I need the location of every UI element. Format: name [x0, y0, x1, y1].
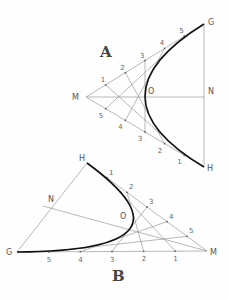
division-tick: [124, 119, 126, 121]
division-tick: [186, 235, 188, 237]
division-label-mg-4: 4: [160, 39, 165, 47]
division-label-mh-3: 3: [138, 135, 142, 143]
division-tick: [144, 131, 146, 133]
point-label-o: O: [120, 212, 126, 221]
division-label-hm-3: 3: [149, 198, 153, 206]
figure-a-labels: 1234554321MGHNO: [72, 18, 214, 173]
diagram-canvas: 1234554321MGHNO A 1234554321GHMNO B: [0, 0, 229, 300]
point-label-o: O: [148, 87, 154, 96]
division-label-gm-3: 3: [110, 256, 114, 264]
figure-a: 1234554321MGHNO A: [72, 18, 214, 173]
division-tick: [146, 206, 148, 208]
figure-b: 1234554321GHMNO B: [6, 154, 217, 285]
point-label-h: H: [79, 154, 85, 163]
side-gh: [17, 163, 87, 252]
division-label-mg-2: 2: [120, 64, 124, 72]
division-label-mg-5: 5: [179, 27, 183, 35]
point-label-m: M: [210, 248, 217, 257]
division-label-hm-2: 2: [129, 183, 133, 191]
division-label-mh-2: 2: [158, 147, 162, 155]
division-label-mg-1: 1: [101, 76, 105, 84]
point-label-g: G: [208, 18, 214, 27]
point-label-g: G: [6, 248, 12, 257]
division-tick: [164, 143, 166, 145]
division-label-gm-1: 1: [173, 255, 177, 263]
division-label-mh-1: 1: [177, 158, 181, 166]
division-label-gm-2: 2: [142, 255, 146, 263]
division-label-mh-5: 5: [99, 112, 103, 120]
division-label-hm-4: 4: [169, 213, 174, 221]
division-label-gm-4: 4: [78, 256, 83, 264]
division-label-hm-5: 5: [189, 227, 193, 235]
division-label-hm-1: 1: [109, 169, 113, 177]
division-tick: [124, 72, 126, 74]
point-label-n: N: [48, 195, 54, 204]
division-tick: [79, 251, 81, 253]
figure-b-labels: 1234554321GHMNO: [6, 154, 217, 264]
parabola-construction-diagram: 1234554321MGHNO A 1234554321GHMNO B: [0, 0, 229, 300]
division-tick: [126, 191, 128, 193]
division-label-mh-4: 4: [118, 123, 123, 131]
division-tick: [105, 84, 107, 86]
division-label-mg-3: 3: [140, 52, 144, 60]
figure-b-parabola-curve: [17, 163, 133, 252]
figure-a-title: A: [99, 43, 112, 61]
point-label-h: H: [207, 164, 213, 173]
point-label-n: N: [208, 87, 214, 96]
division-tick: [111, 251, 113, 253]
division-tick: [143, 250, 145, 252]
division-label-gm-5: 5: [47, 256, 51, 264]
division-tick: [144, 60, 146, 62]
division-tick: [174, 250, 176, 252]
point-label-m: M: [72, 93, 79, 102]
division-tick: [166, 221, 168, 223]
division-tick: [164, 47, 166, 49]
division-tick: [105, 108, 107, 110]
figure-b-title: B: [112, 267, 125, 285]
